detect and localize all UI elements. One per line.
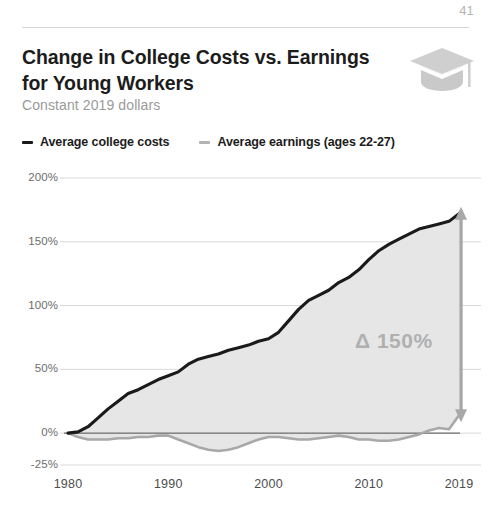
x-axis-tick: 2019 xyxy=(429,477,489,491)
chart-plot-area xyxy=(0,0,491,517)
x-axis-tick: 1980 xyxy=(38,477,98,491)
y-axis-tick: 50% xyxy=(14,362,58,374)
y-axis-tick: 200% xyxy=(14,171,58,183)
delta-annotation-label: Δ 150% xyxy=(355,329,433,353)
chart-svg xyxy=(0,0,491,517)
y-axis-tick: 0% xyxy=(14,426,58,438)
chart-page: 41 Change in College Costs vs. Earnings … xyxy=(0,0,491,517)
x-axis-tick: 2000 xyxy=(239,477,299,491)
x-axis-tick: 1990 xyxy=(138,477,198,491)
y-axis-tick: 100% xyxy=(14,299,58,311)
y-axis-tick: -25% xyxy=(14,458,58,470)
x-axis-tick: 2010 xyxy=(339,477,399,491)
y-axis-tick: 150% xyxy=(14,235,58,247)
